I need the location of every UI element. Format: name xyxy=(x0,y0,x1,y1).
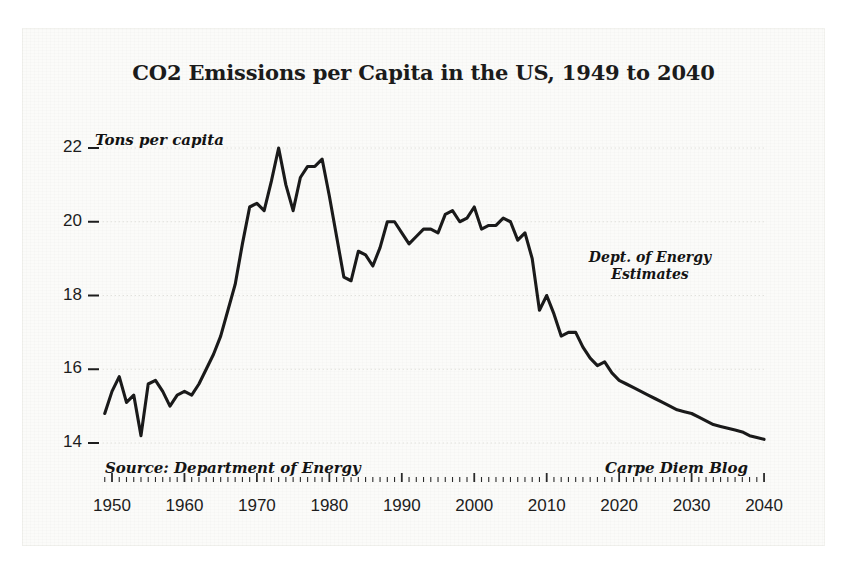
x-tick-label: 1970 xyxy=(227,496,287,516)
x-tick-label: 1990 xyxy=(372,496,432,516)
x-tick-label: 1960 xyxy=(154,496,214,516)
y-tick-label: 22 xyxy=(42,137,82,157)
line-chart-svg xyxy=(0,0,847,571)
gridlines-group xyxy=(103,148,766,443)
x-tick-label: 2030 xyxy=(662,496,722,516)
y-tick-label: 18 xyxy=(42,285,82,305)
y-tick-label: 20 xyxy=(42,211,82,231)
series-line-co2-per-capita xyxy=(105,148,764,439)
x-tick-label: 2020 xyxy=(589,496,649,516)
chart-page: CO2 Emissions per Capita in the US, 1949… xyxy=(0,0,847,571)
y-tick-label: 14 xyxy=(42,432,82,452)
y-tick-marks-group xyxy=(88,148,99,443)
plot-area: 2220181614 19501960197019801990200020102… xyxy=(0,0,847,571)
x-tick-label: 2000 xyxy=(444,496,504,516)
x-tick-label: 1950 xyxy=(82,496,142,516)
x-tick-label: 1980 xyxy=(299,496,359,516)
x-minor-tick-marks-group xyxy=(105,477,757,482)
y-tick-label: 16 xyxy=(42,358,82,378)
x-tick-label: 2040 xyxy=(734,496,794,516)
x-tick-label: 2010 xyxy=(517,496,577,516)
